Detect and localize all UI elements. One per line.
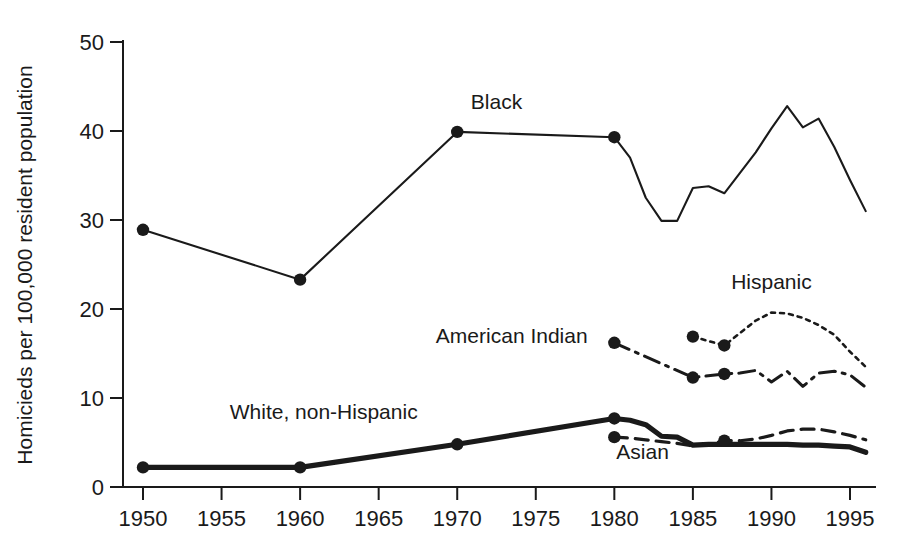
series-line-american-indian	[614, 343, 865, 388]
y-tick-label: 20	[80, 297, 104, 322]
series-label-black: Black	[471, 90, 523, 113]
y-tick-label: 30	[80, 208, 104, 233]
data-point-marker-american-indian	[687, 371, 699, 383]
data-point-marker-white-non-hispanic	[608, 412, 620, 424]
y-axis-title: Homicieds per 100,000 resident populatio…	[13, 65, 36, 464]
x-tick-label: 1990	[747, 506, 796, 531]
series-label-hispanic: Hispanic	[731, 270, 812, 293]
x-tick-label: 1955	[197, 506, 246, 531]
data-point-marker-asian	[718, 435, 730, 447]
data-point-marker-black	[608, 131, 620, 143]
series-label-american-indian: American Indian	[436, 324, 588, 347]
data-point-marker-american-indian	[608, 337, 620, 349]
x-tick-label: 1960	[276, 506, 325, 531]
data-point-marker-white-non-hispanic	[294, 461, 306, 473]
homicide-rate-chart: 01020304050 1950195519601965197019751980…	[0, 0, 905, 550]
data-point-marker-hispanic	[718, 339, 730, 351]
series-label-white-non-hispanic: White, non-Hispanic	[230, 400, 418, 423]
x-tick-label: 1980	[590, 506, 639, 531]
series-line-hispanic	[693, 313, 866, 367]
chart-canvas: 01020304050 1950195519601965197019751980…	[0, 0, 905, 550]
data-point-marker-american-indian	[718, 368, 730, 380]
data-point-marker-white-non-hispanic	[137, 461, 149, 473]
series-label-layer: BlackHispanicAmerican IndianWhite, non-H…	[230, 90, 812, 464]
data-point-marker-hispanic	[687, 330, 699, 342]
series-line-black	[143, 106, 866, 280]
x-tick-label: 1975	[511, 506, 560, 531]
x-tick-label: 1985	[668, 506, 717, 531]
x-tick-label: 1950	[119, 506, 168, 531]
x-tick-label: 1995	[826, 506, 875, 531]
y-tick-label: 50	[80, 30, 104, 55]
data-point-marker-white-non-hispanic	[451, 438, 463, 450]
series-label-asian: Asian	[616, 440, 669, 463]
x-tick-label: 1965	[354, 506, 403, 531]
data-point-marker-black	[294, 273, 306, 285]
x-tick-label: 1970	[433, 506, 482, 531]
data-point-marker-black	[451, 126, 463, 138]
data-point-marker-black	[137, 224, 149, 236]
y-tick-label: 0	[92, 475, 104, 500]
x-axis: 1950195519601965197019751980198519901995	[119, 487, 875, 531]
series-line-white-non-hispanic	[143, 418, 866, 467]
y-tick-label: 40	[80, 119, 104, 144]
y-axis: 01020304050	[80, 30, 123, 500]
y-tick-label: 10	[80, 386, 104, 411]
